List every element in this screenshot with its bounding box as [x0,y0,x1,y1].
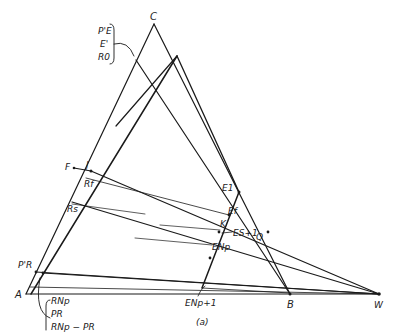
line-K-short [160,225,220,230]
point-Q [267,231,270,234]
point-J [90,170,93,173]
arrow-bottom-left [38,278,50,318]
line-ENp-short [135,238,212,245]
label-E-prime: E' [100,39,108,49]
label-J: J [84,160,89,170]
edge-CB [154,24,290,294]
point-ENp [209,257,212,260]
bracket-bottom-left [46,300,50,330]
point-B [289,293,292,296]
line-Rf-Ef [86,178,229,215]
ternary-diagram: C A B W P'E E' R0 F J Rf Rs P'R E1 Ef K … [0,0,394,334]
label-F: F [65,162,71,172]
label-RNp-minus-PR: RNp − PR [51,322,95,332]
point-W [377,292,381,296]
line-R0-E' [116,56,177,126]
arrow-top-left [114,43,134,56]
label-PR-prime: P'R [18,260,32,270]
figure-caption: (a) [196,317,209,327]
label-PR: PR [51,309,63,319]
label-Es1: ES+1 [233,228,258,238]
label-E1: E1 [222,183,233,193]
label-RNp: RNp [51,296,70,306]
extract-curve-upper [177,56,239,192]
label-Rs: Rs [67,204,78,214]
label-C: C [150,11,157,22]
raffinate-curve [31,56,177,294]
edge-AC [26,24,154,294]
label-Q: Q [256,232,263,242]
point-E1 [238,191,241,194]
label-B: B [287,299,294,310]
point-F [73,167,76,170]
label-ENp1: ENp+1 [185,298,216,308]
label-Rf: Rf [84,179,95,189]
label-A: A [14,289,22,300]
label-ENp: ENp [212,242,230,252]
point-K [218,231,221,234]
label-W: W [374,300,384,310]
label-R0: R0 [98,52,110,62]
point-PR [35,271,38,274]
point-RNp [42,272,45,275]
label-PE-prime: P'E [98,26,112,36]
